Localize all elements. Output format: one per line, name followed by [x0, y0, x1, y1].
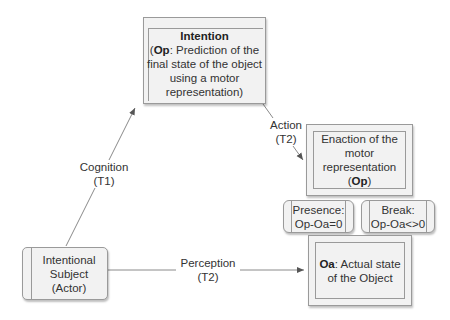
enaction-inner-frame: Enaction of the motor representation (Op…: [313, 131, 406, 189]
perception-label: Perception (T2): [176, 256, 240, 284]
actor-line3: (Actor): [42, 281, 95, 295]
enaction-node: Enaction of the motor representation (Op…: [306, 124, 413, 196]
diagram: Cognition (T1) Action (T2) Perception (T…: [0, 0, 450, 320]
enaction-op: Op: [352, 175, 368, 187]
enaction-line1: Enaction of the: [321, 132, 398, 146]
enaction-line2: motor: [321, 146, 398, 160]
perception-time: (T2): [176, 270, 240, 284]
enaction-line3: representation: [321, 160, 398, 174]
perception-text: Perception: [176, 256, 240, 270]
break-line2: Op-Oa<>0: [362, 217, 434, 231]
presence-node: Presence: Op-Oa=0: [283, 200, 354, 233]
oa-line1: : Actual state: [335, 258, 401, 270]
action-text: Action: [266, 118, 306, 132]
presence-line2: Op-Oa=0: [284, 217, 353, 231]
intention-node: Intention (Op: Prediction of the final s…: [143, 17, 266, 104]
oa-inner-frame: Oa: Actual state of the Object: [315, 242, 405, 299]
oa-label: Oa: [319, 258, 334, 270]
intention-op: Op: [154, 44, 170, 56]
intention-line4: representation): [144, 85, 265, 99]
action-time: (T2): [266, 132, 306, 146]
cognition-text: Cognition: [74, 160, 134, 174]
intention-line1: : Prediction of the: [170, 44, 260, 56]
actor-line1: Intentional: [42, 253, 95, 267]
oa-node: Oa: Actual state of the Object: [308, 235, 412, 306]
cognition-time: (T1): [74, 174, 134, 188]
presence-line1: Presence:: [284, 203, 353, 217]
intention-line3: using a motor: [144, 71, 265, 85]
break-line1: Break:: [362, 203, 434, 217]
intention-title: Intention: [180, 30, 229, 42]
action-label: Action (T2): [266, 118, 306, 146]
oa-line2: of the Object: [319, 271, 400, 285]
actor-bar: [31, 248, 32, 299]
cognition-label: Cognition (T1): [74, 160, 134, 188]
intention-text: Intention (Op: Prediction of the final s…: [144, 29, 265, 99]
actor-node: Intentional Subject (Actor): [22, 247, 108, 300]
break-node: Break: Op-Oa<>0: [361, 200, 435, 233]
intention-line2: final state of the object: [144, 57, 265, 71]
actor-line2: Subject: [42, 267, 95, 281]
